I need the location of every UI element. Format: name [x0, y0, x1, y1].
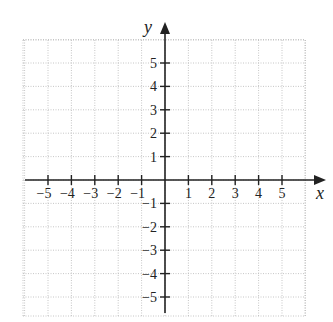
y-tick-label: 2 — [150, 126, 157, 141]
y-tick-label: −3 — [142, 243, 157, 258]
x-tick-label: −3 — [83, 186, 98, 201]
x-tick-label: 5 — [279, 186, 286, 201]
x-tick-label: −4 — [60, 186, 75, 201]
y-tick-label: −1 — [142, 196, 157, 211]
x-axis-label: x — [315, 183, 324, 203]
y-tick-label: −2 — [142, 220, 157, 235]
y-tick-label: 4 — [150, 79, 157, 94]
x-tick-label: 2 — [208, 186, 215, 201]
y-tick-label: 5 — [150, 56, 157, 71]
coordinate-plane: −5−4−3−2−11234554321−1−2−3−4−5 x y — [0, 0, 333, 322]
y-tick-label: −4 — [142, 267, 157, 282]
x-tick-label: 3 — [232, 186, 239, 201]
x-tick-label: 1 — [185, 186, 192, 201]
x-tick-label: −2 — [107, 186, 122, 201]
y-tick-label: −5 — [142, 290, 157, 305]
y-axis-arrow-icon — [160, 22, 170, 34]
x-tick-label: −5 — [37, 186, 52, 201]
y-tick-label: 1 — [150, 150, 157, 165]
y-tick-label: 3 — [150, 103, 157, 118]
axes — [25, 22, 326, 313]
y-axis-label: y — [142, 17, 152, 37]
x-tick-label: 4 — [255, 186, 262, 201]
